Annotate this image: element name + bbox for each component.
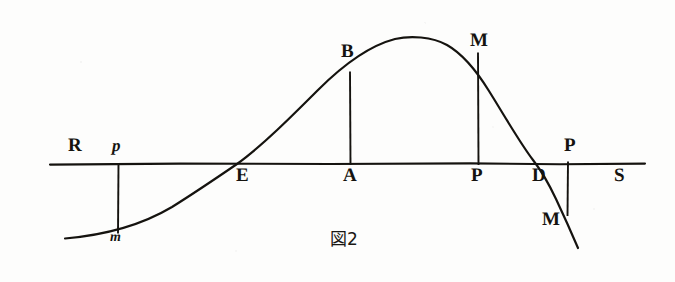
ordinate-ab (350, 72, 351, 166)
ordinate-pm-lower (568, 162, 569, 217)
label-point-r: R (68, 136, 82, 155)
label-point-p-right: P (564, 136, 576, 155)
label-point-m-upper: M (470, 31, 488, 50)
ordinate-pm-upper (478, 53, 479, 166)
label-point-s: S (614, 166, 625, 185)
figure-caption: 図2 (330, 231, 358, 248)
label-point-d: D (532, 166, 546, 185)
figure-container: R p m E B A M P D M P S 図2 (0, 0, 675, 282)
label-point-m-left: m (110, 231, 121, 245)
label-point-p-mid: P (471, 166, 483, 185)
label-point-a: A (343, 166, 357, 185)
label-point-m-lower: M (542, 210, 560, 229)
label-point-p-left: p (112, 137, 121, 154)
ordinate-pm (118, 164, 119, 234)
label-point-b: B (341, 42, 354, 61)
label-point-e: E (236, 166, 249, 185)
wave-curve (65, 37, 578, 248)
